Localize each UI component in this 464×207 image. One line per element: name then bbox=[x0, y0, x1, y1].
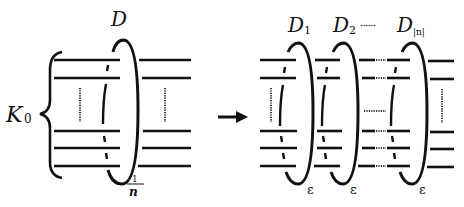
disk-d-label: D bbox=[110, 7, 127, 31]
left-configuration: D K 0 1 n bbox=[5, 7, 191, 199]
disk-dn-loop bbox=[391, 43, 427, 184]
right-configuration: D 1 D 2 ······ D |n| ε ε ε bbox=[260, 13, 454, 197]
disk-d1-label: D bbox=[287, 13, 304, 37]
arrow-icon bbox=[218, 111, 248, 123]
disk-d2-label: D bbox=[332, 13, 349, 37]
strands-left bbox=[54, 60, 120, 166]
disk-d2-sign: ε bbox=[350, 182, 357, 197]
disk-d2-subscript: 2 bbox=[349, 24, 356, 37]
disk-dn-subscript: |n| bbox=[413, 27, 425, 38]
disk-d1-subscript: 1 bbox=[304, 24, 311, 37]
disk-d-loop bbox=[103, 40, 138, 184]
twist-numerator: 1 bbox=[132, 174, 138, 184]
twist-diagram: D K 0 1 n bbox=[0, 0, 464, 207]
disk-d1-loop bbox=[280, 43, 313, 184]
twist-denominator: n bbox=[129, 185, 138, 199]
disk-dn-label: D bbox=[396, 13, 413, 37]
k0-subscript: 0 bbox=[24, 112, 32, 126]
k0-brace bbox=[40, 52, 62, 178]
disk-dn-sign: ε bbox=[419, 182, 426, 197]
k0-label: K bbox=[5, 102, 24, 127]
strands-right bbox=[138, 60, 191, 166]
disk-d1-sign: ε bbox=[307, 182, 314, 197]
disk-d2-loop bbox=[322, 43, 358, 184]
disks-ellipsis: ······ bbox=[360, 20, 375, 33]
